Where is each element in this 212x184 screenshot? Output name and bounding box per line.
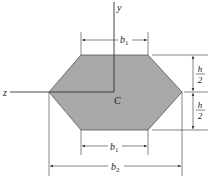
upper-h-den: 2 xyxy=(198,75,203,85)
hexagon-shape xyxy=(49,55,182,130)
z-axis-label: z xyxy=(2,87,7,98)
centroid-label: C xyxy=(114,95,121,106)
upper-h-num: h xyxy=(198,64,203,74)
lower-h-den: 2 xyxy=(198,111,203,121)
y-axis-label: y xyxy=(116,2,122,13)
lower-h-num: h xyxy=(198,100,203,110)
hexagon-diagram: y z C b1 b1 b2 h 2 h 2 xyxy=(0,0,212,184)
diagram-canvas: y z C b1 b1 b2 h 2 h 2 xyxy=(0,0,212,184)
